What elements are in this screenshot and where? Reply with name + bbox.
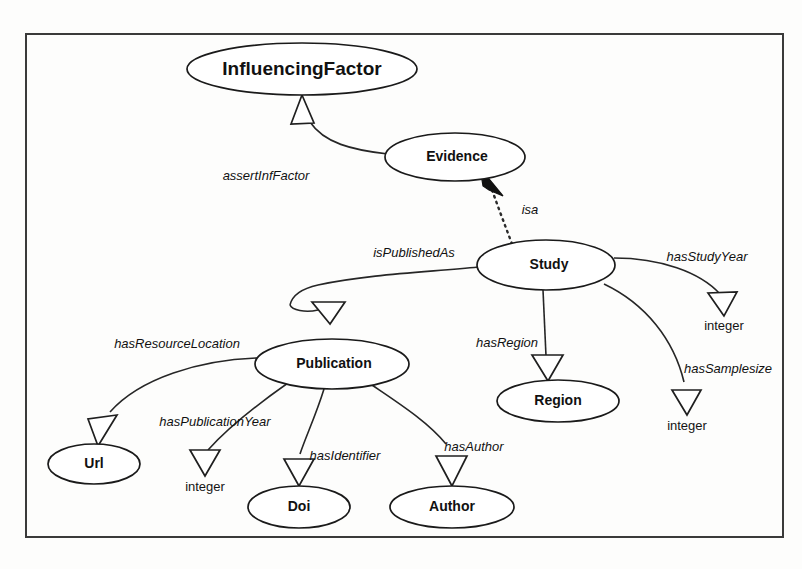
edge-label-hassamplesize: hasSamplesize <box>684 361 772 376</box>
node-study-label: Study <box>530 256 569 272</box>
arrowhead-hollow-hasresourcelocation <box>88 415 117 446</box>
node-doi[interactable]: Doi <box>248 486 350 528</box>
edge-isa-line <box>492 190 512 244</box>
node-url-label: Url <box>84 455 103 471</box>
edge-ispublishedas <box>290 267 478 324</box>
node-evidence-label: Evidence <box>426 148 488 164</box>
node-influencingfactor[interactable]: InfluencingFactor <box>187 43 417 95</box>
edge-label-hasregion: hasRegion <box>476 335 538 350</box>
edge-hassamplesize <box>604 284 701 415</box>
edge-label-hasidentifier: hasIdentifier <box>310 448 381 463</box>
node-doi-label: Doi <box>288 498 311 514</box>
edge-assertinffactor <box>291 95 388 154</box>
node-study[interactable]: Study <box>477 240 615 290</box>
node-evidence[interactable]: Evidence <box>385 133 525 181</box>
datatype-integer-samplesize: integer <box>667 418 707 433</box>
datatype-integer-studyyear: integer <box>704 318 744 333</box>
edge-assertinffactor-line <box>310 122 388 154</box>
edge-label-hasstudyyear: hasStudyYear <box>667 249 749 264</box>
node-author-label: Author <box>429 498 475 514</box>
node-publication-label: Publication <box>296 355 371 371</box>
edge-hasidentifier <box>284 389 324 486</box>
datatype-integer-publicationyear: integer <box>185 479 225 494</box>
node-influencingfactor-label: InfluencingFactor <box>222 58 382 79</box>
arrowhead-hollow-hasauthor <box>436 456 467 486</box>
edge-label-hasauthor: hasAuthor <box>444 439 504 454</box>
node-author[interactable]: Author <box>390 486 514 528</box>
node-region-label: Region <box>534 392 581 408</box>
edge-hasauthor-line <box>372 385 446 444</box>
edge-hasresourcelocation-line <box>110 358 257 412</box>
edge-hasregion-line <box>543 290 546 356</box>
arrowhead-hollow-ispublishedas <box>312 302 345 324</box>
edge-hasstudyyear <box>614 258 737 316</box>
arrowhead-hollow-hasstudyyear <box>708 292 737 316</box>
ontology-diagram: InfluencingFactor Evidence Study Publica… <box>0 0 802 569</box>
edge-hasidentifier-line <box>300 389 324 454</box>
arrowhead-hollow-assertinffactor <box>291 95 314 124</box>
edge-hasauthor <box>372 385 467 486</box>
edge-label-isa: isa <box>522 202 539 217</box>
arrowhead-hollow-hasregion <box>532 355 563 381</box>
diagram-canvas: InfluencingFactor Evidence Study Publica… <box>0 0 802 569</box>
edge-ispublishedas-hook <box>290 305 318 311</box>
edge-hasresourcelocation <box>88 358 257 446</box>
edge-ispublishedas-line <box>290 267 478 305</box>
node-region[interactable]: Region <box>497 380 619 422</box>
edge-label-ispublishedas: isPublishedAs <box>373 245 455 260</box>
arrowhead-hollow-haspublicationyear <box>190 450 220 476</box>
node-url[interactable]: Url <box>48 444 140 484</box>
edge-hassamplesize-line <box>604 284 684 382</box>
edge-haspublicationyear <box>190 383 288 476</box>
arrowhead-hollow-hassamplesize <box>672 390 701 415</box>
node-publication[interactable]: Publication <box>255 339 409 389</box>
edge-label-hasresourcelocation: hasResourceLocation <box>114 336 240 351</box>
edge-label-haspublicationyear: hasPublicationYear <box>159 414 271 429</box>
edge-label-assertinffactor: assertInfFactor <box>223 168 310 183</box>
